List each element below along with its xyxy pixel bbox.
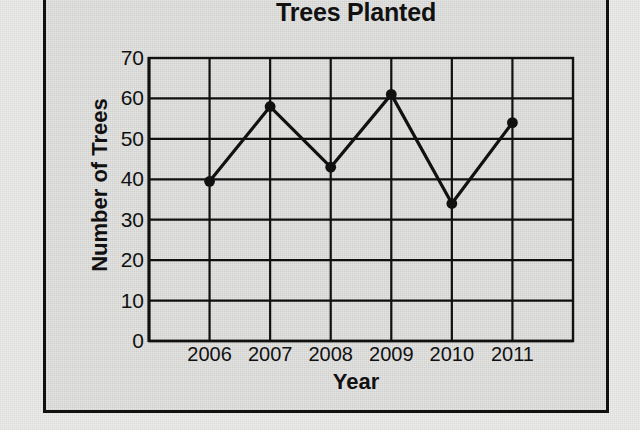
grid-lines [149,58,573,341]
page-background: Trees Planted Number of Trees Year 01020… [0,0,640,430]
axis-lines [149,57,573,342]
data-series-trees-planted [210,94,513,203]
plot-area [46,0,609,413]
figure-frame: Trees Planted Number of Trees Year 01020… [43,0,609,413]
data-point-markers [204,89,518,209]
